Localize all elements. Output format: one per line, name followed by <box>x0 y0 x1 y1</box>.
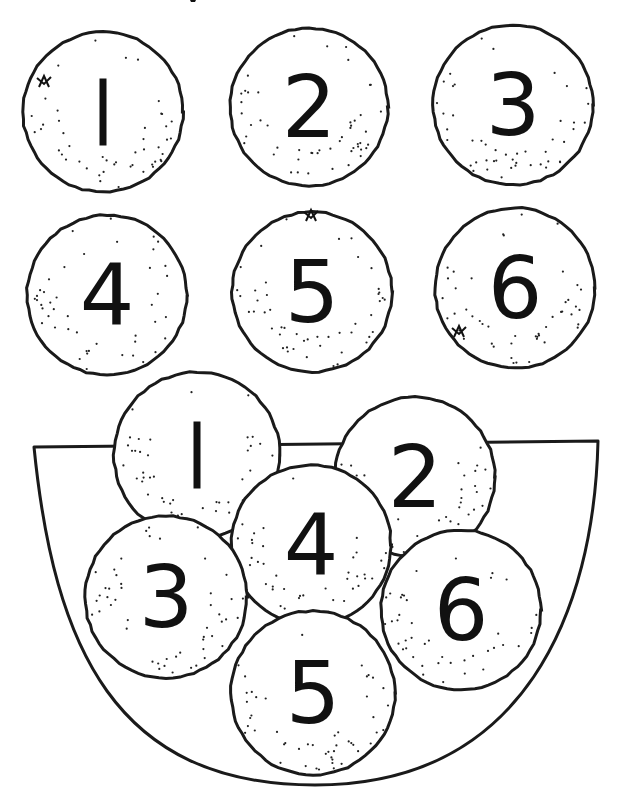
loose-orange-4: 4 <box>27 215 188 375</box>
loose-orange-5: 5 <box>232 210 393 373</box>
loose-orange-3: 3 <box>433 25 594 185</box>
orange-numeral: 6 <box>488 238 543 338</box>
orange-numeral: 5 <box>286 643 341 743</box>
orange-numeral: 2 <box>282 57 337 157</box>
orange-numeral: 2 <box>388 427 443 527</box>
title-fragment <box>190 0 196 2</box>
loose-oranges-group: 23456 <box>23 25 595 375</box>
numeral-one <box>100 79 106 145</box>
bowl-orange-3: 3 <box>85 516 248 679</box>
orange-numeral: 3 <box>139 547 194 647</box>
loose-orange-2: 2 <box>230 28 389 186</box>
bowl-orange-5: 5 <box>231 611 396 776</box>
loose-orange-1 <box>23 32 184 193</box>
orange-numeral: 4 <box>284 495 339 595</box>
orange-numeral: 5 <box>285 242 340 342</box>
bowl-orange-6: 6 <box>381 530 542 689</box>
orange-numeral: 6 <box>434 560 489 660</box>
orange-numeral: 3 <box>486 55 541 155</box>
orange-numeral: 4 <box>80 245 135 345</box>
bowl-orange-4: 4 <box>231 465 391 625</box>
fruit-bowl: 24365 <box>34 372 598 785</box>
loose-orange-6: 6 <box>435 208 595 368</box>
worksheet-canvas: 23456 24365 <box>0 0 621 803</box>
numeral-one <box>194 422 200 488</box>
